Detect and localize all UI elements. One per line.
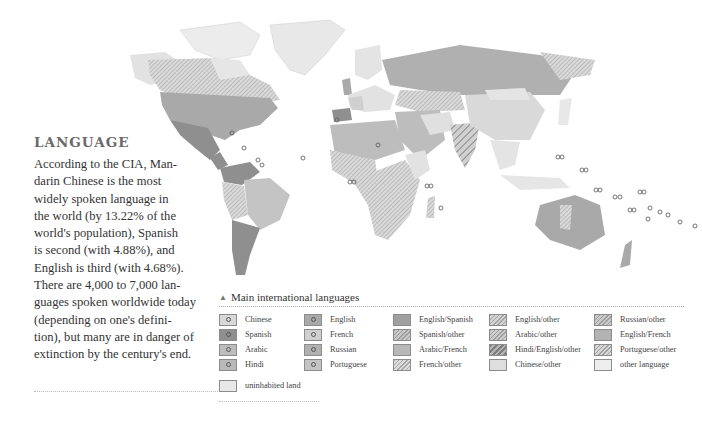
legend-item-russian-other: Russian/other [594,313,666,326]
portuguese-swatch [304,359,322,371]
legend-label: French [330,330,353,339]
arabic-swatch [219,344,237,356]
french-other-swatch [393,359,411,371]
region-brazil [244,178,290,230]
legend-item-arabic-french: Arabic/French [393,343,467,356]
arabic-other-swatch [489,329,507,341]
circle-icon [311,317,316,322]
region-mongolia [485,88,530,100]
english-french-swatch [594,329,612,341]
legend-item-arabic: Arabic [219,343,268,356]
circle-icon [226,317,231,322]
legend-label: Chinese [245,315,272,324]
legend-item-spanish: Spanish [219,328,271,341]
legend-label: English/other [515,315,560,324]
legend-title-text: Main international languages [231,291,359,303]
legend-label: French/other [419,360,461,369]
legend-label: English [330,315,355,324]
russian-swatch [304,344,322,356]
uninhabited-swatch [219,380,237,392]
region-argentina [232,220,260,275]
region-arctic-islands [180,22,260,60]
body-line: guages spoken worldwide today [34,295,196,309]
legend-label: Hindi [245,360,264,369]
region-usa [160,92,278,140]
article-heading: LANGUAGE [34,134,224,150]
legend-item-russian: Russian [304,343,356,356]
legend-label: Hindi/English/other [515,345,581,354]
legend-label: Portuguese [330,360,367,369]
legend-item-spanish-other: Spanish/other [393,328,465,341]
legend-item-portuguese-other: Portuguese/other [594,343,676,356]
region-russia [382,45,580,95]
arabic-french-swatch [393,344,411,356]
legend-label: Russian/other [620,315,666,324]
legend-label: English/French [620,330,671,339]
body-line: According to the CIA, Man- [34,157,177,171]
legend-grid: Chinese Spanish Arabic Hindi uninhabited… [219,313,684,401]
english-swatch [304,314,322,326]
region-madagascar [426,196,435,218]
legend-label: Arabic/French [419,345,467,354]
legend-item-portuguese: Portuguese [304,358,367,371]
circle-icon [311,347,316,352]
legend-label: uninhabited land [245,381,301,390]
body-line: is second (with 4.88%), and [34,243,175,257]
russian-other-swatch [594,314,612,326]
body-line: extinction by the century's end. [34,347,191,361]
legend-item-english-french: English/French [594,328,671,341]
legend-item-english: English [304,313,355,326]
circle-icon [226,362,231,367]
article-sidebar: LANGUAGE According to the CIA, Man- dari… [34,134,224,364]
legend-label: other language [620,360,669,369]
region-andes [222,182,248,220]
legend-label: Russian [330,345,356,354]
english-spanish-swatch [393,314,411,326]
body-line: (depending on one's defini- [34,313,172,327]
legend-item-arabic-other: Arabic/other [489,328,557,341]
legend-item-hindi: Hindi [219,358,264,371]
legend-label: Arabic/other [515,330,557,339]
portuguese-other-swatch [594,344,612,356]
triangle-icon: ▲ [219,293,227,302]
hindi-english-other-swatch [489,344,507,356]
region-central-asia [395,90,465,112]
legend-item-french-other: French/other [393,358,461,371]
region-japan [558,98,572,125]
legend-item-french: French [304,328,353,341]
region-uk [342,78,352,95]
region-india [450,122,480,168]
circle-icon [311,362,316,367]
body-line: widely spoken language in [34,192,169,206]
region-australia-central [560,205,572,230]
legend-label: Spanish/other [419,330,465,339]
map-legend: ▲ Main international languages Chinese S… [219,291,684,401]
legend-label: English/Spanish [419,315,473,324]
legend-label: Spanish [245,330,271,339]
body-line: tion), but many are in danger of [34,330,194,344]
spanish-swatch [219,329,237,341]
spanish-other-swatch [393,329,411,341]
legend-title: ▲ Main international languages [219,291,684,307]
french-swatch [304,329,322,341]
legend-divider [219,401,319,402]
legend-label: Chinese/other [515,360,561,369]
body-line: darin Chinese is the most [34,174,161,188]
body-line: There are 4,000 to 7,000 lan- [34,278,181,292]
legend-item-uninhabited: uninhabited land [219,379,301,392]
circle-icon [311,332,316,337]
body-line: English is third (with 4.68%). [34,261,184,275]
other-language-swatch [594,359,612,371]
region-se-asia [490,140,520,170]
article-body: According to the CIA, Man- darin Chinese… [34,156,224,364]
body-line: world's population), Spanish [34,226,178,240]
sidebar-divider [34,391,224,392]
circle-icon [226,332,231,337]
legend-label: Portuguese/other [620,345,676,354]
legend-item-chinese: Chinese [219,313,272,326]
legend-item-english-spanish: English/Spanish [393,313,473,326]
chinese-other-swatch [489,359,507,371]
region-scandinavia [355,45,382,80]
chinese-swatch [219,314,237,326]
legend-item-hindi-english-other: Hindi/English/other [489,343,581,356]
